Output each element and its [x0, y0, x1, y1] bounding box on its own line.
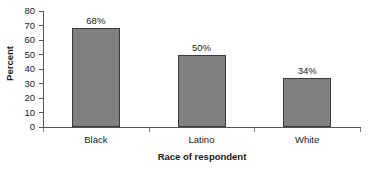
y-axis-tick-label: 30: [24, 78, 35, 90]
y-axis-tick: 40: [0, 63, 43, 75]
y-axis-tick: 70: [0, 20, 43, 32]
y-axis-tick: 20: [0, 92, 43, 104]
y-axis-tick-label: 0: [30, 121, 35, 133]
x-axis-tick-mark: [360, 128, 361, 132]
y-axis-tick-label: 50: [24, 49, 35, 61]
bar-value-label: 68%: [66, 15, 126, 26]
y-axis-tick-label: 60: [24, 34, 35, 46]
bar-value-label: 50%: [172, 42, 232, 53]
x-axis-category-label: Latino: [162, 134, 242, 146]
y-axis-tick: 80: [0, 5, 43, 17]
x-axis-tick-mark: [254, 128, 255, 132]
x-axis-tick-mark: [149, 128, 150, 132]
y-axis-tick: 30: [0, 78, 43, 90]
y-axis-tick: 50: [0, 49, 43, 61]
y-axis-tick: 60: [0, 34, 43, 46]
bar-value-label: 34%: [277, 65, 337, 76]
bar-chart: Percent 01020304050607080 68%Black50%Lat…: [0, 0, 375, 169]
x-axis-category-label: White: [267, 134, 347, 146]
bar-white: [283, 78, 331, 127]
y-axis-tick-label: 40: [24, 63, 35, 75]
y-axis-tick-label: 20: [24, 92, 35, 104]
y-axis-tick-label: 10: [24, 107, 35, 119]
bar-latino: [178, 55, 226, 128]
y-axis-tick: 0: [0, 121, 43, 133]
y-axis-tick-label: 70: [24, 20, 35, 32]
y-axis-tick: 10: [0, 107, 43, 119]
bar-black: [72, 28, 120, 127]
x-axis-title: Race of respondent: [43, 151, 361, 162]
x-axis-tick-mark: [43, 128, 44, 132]
y-axis-tick-label: 80: [24, 5, 35, 17]
x-axis-category-label: Black: [56, 134, 136, 146]
